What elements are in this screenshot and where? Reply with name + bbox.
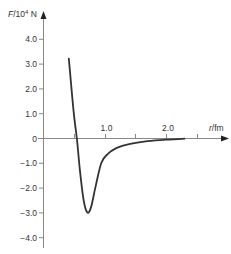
y-tick-label: 3.0 bbox=[25, 59, 37, 69]
y-axis-arrow-icon bbox=[41, 11, 47, 19]
y-tick-label: 1.0 bbox=[25, 109, 37, 119]
y-ticks: 4.03.02.01.00−1.0−2.0−3.0−4.0 bbox=[20, 34, 43, 242]
x-ticks: 1.02.0 bbox=[75, 123, 198, 139]
y-tick-label: 2.0 bbox=[25, 84, 37, 94]
force-distance-chart: 4.03.02.01.00−1.0−2.0−3.0−4.0 1.02.0 F/1… bbox=[0, 0, 231, 254]
y-tick-label: −1.0 bbox=[20, 158, 37, 168]
x-tick-label: 2.0 bbox=[162, 123, 174, 133]
axes bbox=[38, 11, 229, 248]
x-tick-label: 1.0 bbox=[101, 123, 113, 133]
y-tick-label: −4.0 bbox=[20, 233, 37, 243]
y-axis-title: F/104 N bbox=[8, 9, 37, 19]
y-tick-label: 4.0 bbox=[25, 34, 37, 44]
y-tick-label: −2.0 bbox=[20, 183, 37, 193]
x-axis-title: r/fm bbox=[209, 123, 224, 133]
force-curve bbox=[69, 59, 185, 213]
x-axis-arrow-icon bbox=[221, 136, 229, 142]
y-tick-label: 0 bbox=[32, 134, 37, 144]
y-tick-label: −3.0 bbox=[20, 208, 37, 218]
